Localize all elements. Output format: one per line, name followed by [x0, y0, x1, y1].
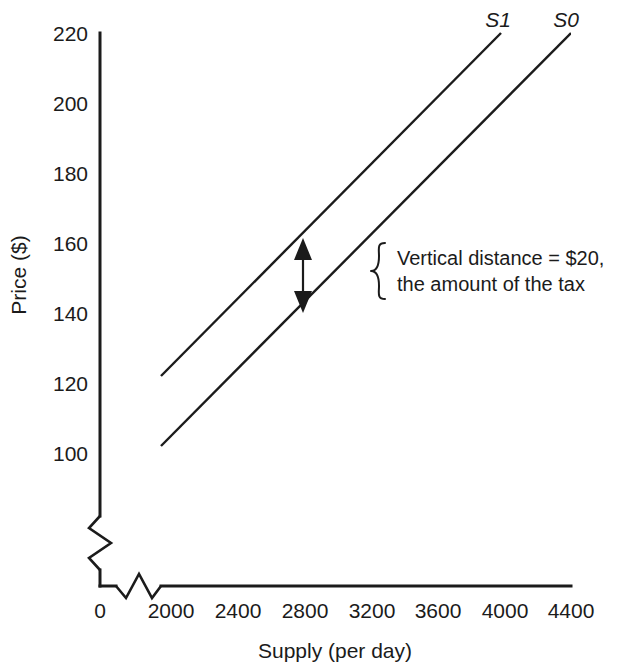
annotation-line-2: the amount of the tax: [397, 273, 585, 295]
tax-gap-arrow-head-up: [294, 238, 312, 260]
supply-curve-figure: 220 200 180 160 140 120 100 0 2000 2400 …: [0, 0, 623, 672]
x-tick-label-0: 0: [94, 599, 106, 622]
x-tick-label-2000: 2000: [148, 599, 195, 622]
y-tick-label-160: 160: [53, 232, 88, 255]
y-tick-label-200: 200: [53, 92, 88, 115]
y-tick-label-180: 180: [53, 162, 88, 185]
x-tick-label-3200: 3200: [349, 599, 396, 622]
y-tick-label-220: 220: [53, 22, 88, 45]
annotation-line-1: Vertical distance = $20,: [397, 247, 604, 269]
y-tick-label-120: 120: [53, 372, 88, 395]
x-axis-title: Supply (per day): [258, 639, 412, 662]
y-axis-break-icon: [89, 516, 111, 570]
x-tick-label-4000: 4000: [482, 599, 529, 622]
annotation-brace-icon: [371, 243, 385, 299]
x-tick-label-4400: 4400: [548, 599, 595, 622]
y-axis-title: Price ($): [7, 235, 30, 314]
x-tick-label-2400: 2400: [215, 599, 262, 622]
tax-gap-double-arrow: [294, 238, 312, 313]
x-tick-label-3600: 3600: [415, 599, 462, 622]
curve-label-s1: S1: [485, 8, 511, 31]
x-axis-break-icon: [116, 574, 161, 598]
x-tick-label-2800: 2800: [282, 599, 329, 622]
curve-label-s0: S0: [553, 8, 579, 31]
supply-curve-s0: [161, 33, 571, 446]
chart-canvas: 220 200 180 160 140 120 100 0 2000 2400 …: [0, 0, 623, 672]
y-tick-label-140: 140: [53, 302, 88, 325]
y-tick-label-100: 100: [53, 442, 88, 465]
supply-curve-s1: [161, 33, 501, 376]
